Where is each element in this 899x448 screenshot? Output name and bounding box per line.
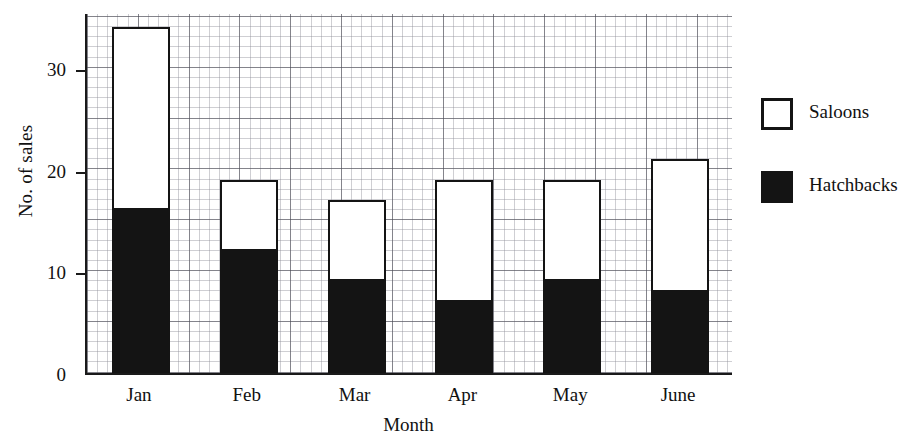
bar-segment-saloons[interactable] bbox=[435, 180, 493, 302]
bar-group[interactable] bbox=[328, 200, 386, 373]
x-tick-label: May bbox=[520, 384, 620, 406]
x-tick-label: Mar bbox=[305, 384, 405, 406]
bar-segment-saloons[interactable] bbox=[220, 180, 278, 251]
x-axis-title: Month bbox=[349, 414, 469, 436]
x-tick-label: Apr bbox=[412, 384, 512, 406]
legend-swatch-hatchbacks bbox=[761, 171, 793, 203]
legend-label-hatchbacks: Hatchbacks bbox=[809, 174, 898, 196]
legend-swatch-saloons bbox=[761, 98, 793, 130]
x-tick-label: Feb bbox=[197, 384, 297, 406]
bar-segment-hatchbacks[interactable] bbox=[543, 281, 601, 373]
bar-segment-hatchbacks[interactable] bbox=[112, 210, 170, 373]
bar-group[interactable] bbox=[543, 180, 601, 373]
y-tick-label: 10 bbox=[20, 263, 66, 282]
y-tick-mark bbox=[76, 273, 85, 275]
bar-segment-hatchbacks[interactable] bbox=[651, 292, 709, 373]
bar-group[interactable] bbox=[435, 180, 493, 373]
plot-area bbox=[85, 14, 732, 375]
bar-segment-saloons[interactable] bbox=[651, 159, 709, 291]
y-tick-label: 30 bbox=[20, 60, 66, 79]
bar-group[interactable] bbox=[112, 27, 170, 373]
x-tick-label: June bbox=[628, 384, 728, 406]
bar-segment-saloons[interactable] bbox=[112, 27, 170, 210]
stacked-bar-chart: No. of sales 0102030 JanFebMarAprMayJune… bbox=[0, 0, 899, 448]
y-tick-mark bbox=[76, 70, 85, 72]
bar-group[interactable] bbox=[220, 180, 278, 373]
grid-lines bbox=[87, 14, 732, 373]
bar-group[interactable] bbox=[651, 159, 709, 373]
bar-segment-hatchbacks[interactable] bbox=[220, 251, 278, 373]
y-tick-label: 0 bbox=[20, 365, 66, 384]
bar-segment-saloons[interactable] bbox=[328, 200, 386, 281]
bar-segment-hatchbacks[interactable] bbox=[435, 302, 493, 373]
legend-label-saloons: Saloons bbox=[809, 101, 869, 123]
y-tick-mark bbox=[76, 172, 85, 174]
x-tick-label: Jan bbox=[89, 384, 189, 406]
y-tick-label: 20 bbox=[20, 162, 66, 181]
bar-segment-hatchbacks[interactable] bbox=[328, 281, 386, 373]
bar-segment-saloons[interactable] bbox=[543, 180, 601, 282]
